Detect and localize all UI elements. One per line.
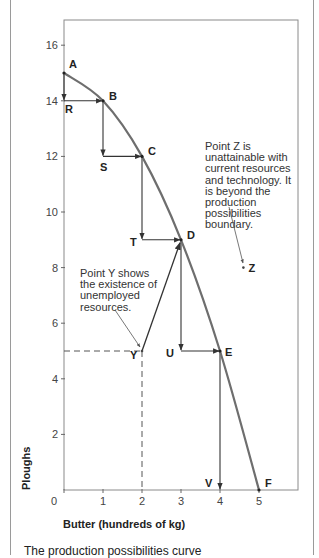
annotations: Point Y showsthe existence ofunemployedr… [80, 140, 291, 347]
curve-point [101, 99, 104, 102]
point-label-s: S [100, 161, 107, 173]
curve-point [140, 155, 143, 158]
point-label-d: D [187, 229, 195, 241]
curve-point [62, 71, 65, 74]
figure-caption: The production possibilities curve [24, 544, 201, 558]
y-tick-label: 4 [52, 373, 58, 385]
x-tick-label: 1 [100, 495, 106, 507]
point-z [242, 266, 245, 269]
point-label-r: R [65, 103, 73, 115]
point-label-v: V [205, 477, 213, 489]
point-label-a: A [69, 58, 77, 70]
point-label-y: Y [130, 349, 138, 361]
point-label-z: Z [248, 262, 255, 274]
curve-point [257, 488, 260, 491]
y-tick-label: 2 [52, 428, 58, 440]
x-tick-label: 3 [178, 495, 184, 507]
point-y [141, 350, 144, 353]
x-tick-label: 4 [217, 495, 223, 507]
annotation-z: Point Z isunattainable withcurrent resou… [205, 140, 291, 230]
y-to-d-arrow [142, 243, 180, 351]
point-label-c: C [148, 145, 156, 157]
x-tick-label: 5 [256, 495, 262, 507]
x-tick-label: 0 [51, 495, 57, 507]
y-tick-label: 8 [52, 262, 58, 274]
x-tick-label: 2 [139, 495, 145, 507]
annotation-y: Point Y showsthe existence ofunemployedr… [80, 267, 158, 313]
y-tick-label: 6 [52, 317, 58, 329]
y-tick-label: 10 [46, 206, 58, 218]
y-tick-label: 16 [46, 39, 58, 51]
curve-point [179, 238, 182, 241]
point-label-f: F [265, 477, 272, 489]
point-label-e: E [225, 346, 232, 358]
annotation-pointer-y [115, 310, 140, 347]
y-axis-title: Ploughs [20, 447, 32, 490]
axis-ticks: 246810121416012345 [46, 39, 262, 507]
point-label-t: T [130, 236, 137, 248]
x-axis-title: Butter (hundreds of kg) [63, 518, 186, 530]
y-tick-label: 12 [46, 150, 58, 162]
point-label-b: B [109, 90, 117, 102]
curve-point [218, 349, 221, 352]
point-label-u: U [166, 347, 174, 359]
y-tick-label: 14 [46, 95, 58, 107]
